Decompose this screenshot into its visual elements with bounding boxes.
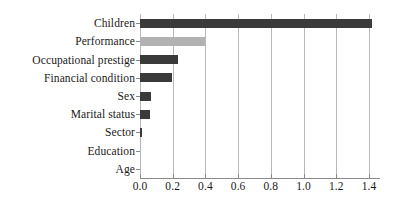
plot-area [140,14,369,178]
gridline [369,14,370,178]
bar [140,37,205,46]
x-axis-tick-label: 1.4 [349,180,389,193]
bar [140,128,142,137]
x-axis-tick [369,174,370,178]
bar [140,19,372,28]
bar [140,73,172,82]
y-axis-category-label: Children [94,17,135,29]
y-axis-category-label: Age [116,163,135,175]
y-axis-category-label: Financial condition [44,72,135,84]
y-axis-category-label: Marital status [71,108,135,120]
y-axis-category-label: Occupational prestige [32,54,135,66]
y-axis-category-label: Education [87,145,135,157]
bar [140,55,178,64]
y-axis-category-label: Performance [75,35,135,47]
horizontal-bar-chart: ChildrenPerformanceOccupational prestige… [0,0,400,216]
bar [140,92,151,101]
x-axis-line [140,178,380,179]
y-axis-category-label: Sex [117,90,135,102]
y-axis-category-label: Sector [105,126,135,138]
bar [140,110,150,119]
